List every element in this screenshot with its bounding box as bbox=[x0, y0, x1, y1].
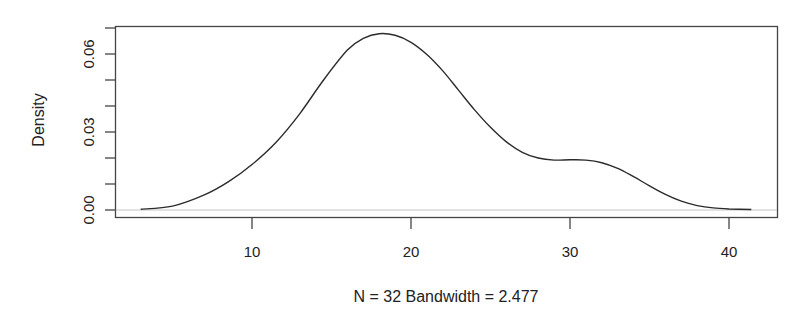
x-tick-label: 40 bbox=[721, 243, 738, 260]
x-axis: 10203040 bbox=[244, 218, 738, 261]
y-tick-label: 0.06 bbox=[80, 39, 97, 68]
y-tick-label: 0.00 bbox=[80, 195, 97, 224]
y-axis: 0.000.030.06 bbox=[80, 28, 116, 225]
x-tick-label: 30 bbox=[562, 243, 579, 260]
density-curve bbox=[141, 34, 752, 210]
y-tick-label: 0.03 bbox=[80, 117, 97, 146]
plot-frame bbox=[116, 27, 778, 218]
density-chart: 0.000.030.06 10203040 Density N = 32 Ban… bbox=[0, 0, 802, 318]
x-tick-label: 10 bbox=[244, 243, 261, 260]
x-tick-label: 20 bbox=[403, 243, 420, 260]
y-axis-label: Density bbox=[30, 93, 47, 146]
x-axis-label: N = 32 Bandwidth = 2.477 bbox=[353, 288, 538, 305]
